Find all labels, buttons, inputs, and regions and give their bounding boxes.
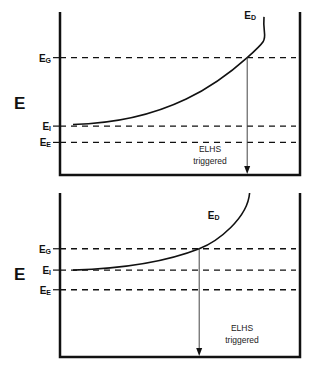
level-label-e_g: EG [39, 244, 52, 255]
level-label-e_i: EI [42, 121, 51, 132]
arrow-head-icon [196, 348, 202, 356]
energy-curve [73, 193, 250, 270]
diagram: EEGEIEEEDELHStriggered EEGEIEEEDELHStrig… [0, 0, 310, 375]
panel-bottom: EEGEIEEEDELHStriggered [14, 193, 300, 357]
annotation-line: ELHS [199, 144, 222, 154]
curve-label: ED [208, 210, 220, 221]
curve-label: ED [244, 10, 256, 21]
annotation-line: triggered [225, 335, 259, 345]
level-label-e_g: EG [39, 53, 52, 64]
axis-label-e: E [14, 94, 25, 113]
annotation-line: triggered [193, 156, 227, 166]
axis-label-e: E [14, 265, 25, 284]
level-label-e_i: EI [42, 265, 51, 276]
frame [60, 193, 300, 357]
arrow-head-icon [244, 166, 250, 174]
level-label-e_e: EE [40, 137, 52, 148]
energy-curve [73, 17, 265, 125]
level-label-e_e: EE [40, 285, 52, 296]
annotation-line: ELHS [231, 323, 254, 333]
panel-top: EEGEIEEEDELHStriggered [14, 10, 300, 175]
